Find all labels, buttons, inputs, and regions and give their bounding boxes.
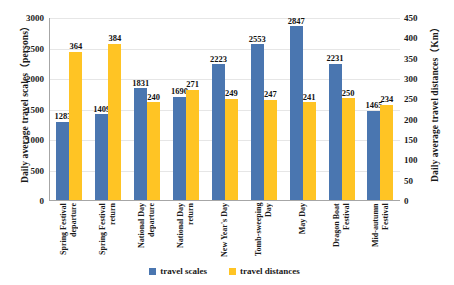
x-axis-label-text: National Day departure <box>137 203 156 265</box>
bar-value-label: 2553 <box>249 35 266 45</box>
bar-scales: 2223 <box>212 64 225 200</box>
bar-value-label: 240 <box>147 93 160 103</box>
bar-value-label: 249 <box>225 89 238 99</box>
x-axis-label-text: New Year's Day <box>220 203 230 257</box>
x-axis-label: National Day return <box>168 203 204 265</box>
y-tick-right-400: 400 <box>404 33 418 43</box>
bar-distances: 249 <box>225 99 238 200</box>
y-tick-left-500: 500 <box>31 166 45 176</box>
y-tick-right-50: 50 <box>404 176 413 186</box>
x-axis-label-text: Dragon Boat Festival <box>332 203 351 265</box>
bar-distances: 234 <box>380 105 393 200</box>
x-axis-label: Tomb-sweeping Day <box>246 203 282 265</box>
bar-group: 1690271 <box>173 18 199 200</box>
bar-value-label: 364 <box>70 42 83 52</box>
x-axis-label-text: Tomb-sweeping Day <box>254 203 273 265</box>
y-axis-left-ticks: 050010001500200025003000 <box>14 18 44 201</box>
legend-label: travel distances <box>240 266 300 276</box>
bar-chart-figure: Daily average travel scales（persons） Dai… <box>0 0 454 285</box>
bar-distances: 241 <box>303 102 316 200</box>
bar-value-label: 234 <box>381 95 394 105</box>
legend-swatch-icon <box>149 268 156 275</box>
legend-item: travel distances <box>229 266 300 276</box>
bar-scales: 1283 <box>56 122 69 200</box>
plot-area: 1283364140938418312401690271222324925532… <box>49 18 400 201</box>
y-tick-left-1000: 1000 <box>26 135 44 145</box>
x-axis-label: Mid-autumn Festival <box>363 203 399 265</box>
bar-group: 1465234 <box>367 18 393 200</box>
bar-value-label: 247 <box>264 90 277 100</box>
y-tick-right-450: 450 <box>404 13 418 23</box>
bar-distances: 240 <box>147 102 160 200</box>
bar-distances: 250 <box>342 98 355 200</box>
chart-legend: travel scalestravel distances <box>49 266 400 276</box>
bar-group: 2231250 <box>329 18 355 200</box>
bar-distances: 247 <box>264 100 277 200</box>
bar-group: 2553247 <box>251 18 277 200</box>
bar-value-label: 1831 <box>132 79 149 89</box>
x-axis-label: Dragon Boat Festival <box>324 203 360 265</box>
bar-scales: 1409 <box>95 114 108 200</box>
y-tick-right-200: 200 <box>404 115 418 125</box>
bar-group: 2847241 <box>290 18 316 200</box>
y-tick-right-300: 300 <box>404 74 418 84</box>
y-tick-right-350: 350 <box>404 54 418 64</box>
y-tick-right-100: 100 <box>404 155 418 165</box>
bar-scales: 1465 <box>367 111 380 200</box>
bar-scales: 1831 <box>134 88 147 200</box>
y-tick-right-150: 150 <box>404 135 418 145</box>
y-tick-left-2000: 2000 <box>26 74 44 84</box>
y-tick-left-1500: 1500 <box>26 105 44 115</box>
x-axis-label: National Day departure <box>129 203 165 265</box>
x-axis-label: Spring Festival return <box>90 203 126 265</box>
bar-group: 1283364 <box>56 18 82 200</box>
bar-value-label: 2231 <box>327 54 344 64</box>
bar-scales: 2553 <box>251 44 264 200</box>
bar-value-label: 241 <box>303 93 316 103</box>
bar-group: 2223249 <box>212 18 238 200</box>
x-axis-label-text: Spring Festival return <box>98 203 117 265</box>
y-axis-right-ticks: 050100150200250300350400450 <box>404 18 434 201</box>
x-axis-label-text: National Day return <box>176 203 195 265</box>
x-axis-label-text: May Day <box>298 203 308 234</box>
x-axis-label: Spring Festival departure <box>51 203 87 265</box>
bar-scales: 2847 <box>290 26 303 200</box>
bar-value-label: 384 <box>108 34 121 44</box>
bar-group: 1409384 <box>95 18 121 200</box>
bar-group: 1831240 <box>134 18 160 200</box>
legend-label: travel scales <box>160 266 207 276</box>
y-tick-left-0: 0 <box>40 196 45 206</box>
x-axis-label-text: Mid-autumn Festival <box>371 203 390 265</box>
x-axis-label: May Day <box>285 203 321 265</box>
bar-groups: 1283364140938418312401690271222324925532… <box>50 18 400 200</box>
bar-value-label: 2847 <box>288 17 305 27</box>
bar-value-label: 271 <box>186 80 199 90</box>
bar-scales: 2231 <box>329 64 342 200</box>
bar-value-label: 2223 <box>210 55 227 65</box>
y-tick-right-250: 250 <box>404 94 418 104</box>
bar-value-label: 250 <box>342 89 355 99</box>
bar-distances: 364 <box>69 52 82 200</box>
y-tick-left-2500: 2500 <box>26 44 44 54</box>
x-axis-label-text: Spring Festival departure <box>59 203 78 265</box>
bar-scales: 1690 <box>173 97 186 200</box>
y-tick-right-0: 0 <box>404 196 409 206</box>
x-axis-category-labels: Spring Festival departureSpring Festival… <box>49 203 400 265</box>
legend-item: travel scales <box>149 266 207 276</box>
legend-swatch-icon <box>229 268 236 275</box>
bar-distances: 271 <box>186 90 199 200</box>
y-tick-left-3000: 3000 <box>26 13 44 23</box>
bar-distances: 384 <box>108 44 121 200</box>
x-axis-label: New Year's Day <box>207 203 243 265</box>
